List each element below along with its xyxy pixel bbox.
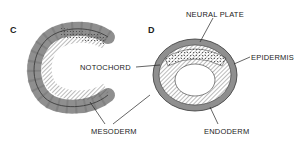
embryo-diagram [0, 0, 302, 151]
embryo-d [153, 39, 237, 111]
label-endoderm: ENDODERM [204, 127, 249, 136]
label-mesoderm: MESODERM [91, 127, 137, 136]
panel-label-c: C [10, 25, 17, 35]
label-notochord: NOTOCHORD [80, 63, 131, 72]
label-epidermis: EPIDERMIS [251, 53, 294, 62]
label-neural-plate: NEURAL PLATE [186, 10, 244, 19]
panel-label-d: D [148, 25, 155, 35]
